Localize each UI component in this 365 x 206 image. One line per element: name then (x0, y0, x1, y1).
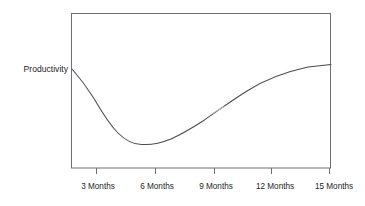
x-tick-label-15-months: 15 Months (315, 182, 353, 191)
plot-area-frame (72, 14, 331, 169)
x-tick-label-9-months: 9 Months (199, 182, 233, 191)
x-tick-label-12-months: 12 Months (256, 182, 294, 191)
productivity-curve-chart: 3 Months 6 Months 9 Months 12 Months 15 … (0, 0, 365, 206)
x-tick-label-3-months: 3 Months (81, 182, 115, 191)
x-tick-label-6-months: 6 Months (140, 182, 174, 191)
y-axis-title: Productivity (24, 64, 69, 74)
chart-canvas: 3 Months 6 Months 9 Months 12 Months 15 … (0, 0, 365, 206)
